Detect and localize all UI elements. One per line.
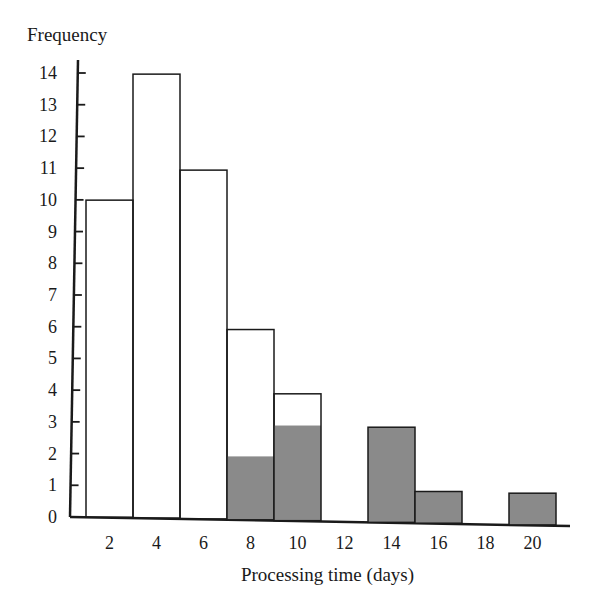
x-tick-label: 18	[477, 533, 495, 553]
y-tick-label: 10	[39, 190, 57, 210]
x-tick-label: 10	[289, 533, 307, 553]
y-tick-label: 14	[39, 63, 57, 83]
y-tick-label: 3	[48, 412, 57, 432]
bar-total	[133, 74, 180, 518]
y-tick-label: 7	[48, 285, 57, 305]
bar-shaded	[509, 493, 556, 525]
y-tick-label: 9	[48, 222, 57, 242]
bar-shaded	[415, 491, 462, 523]
y-tick-label: 2	[48, 444, 57, 464]
y-tick-label: 8	[48, 253, 57, 273]
y-tick-label: 4	[48, 380, 57, 400]
x-tick-label: 14	[383, 533, 401, 553]
x-tick-label: 12	[336, 533, 354, 553]
y-tick-label: 13	[39, 95, 57, 115]
bar-total	[86, 200, 133, 517]
x-tick-label: 6	[199, 533, 208, 553]
y-tick-label: 5	[48, 348, 57, 368]
x-tick-label: 4	[152, 533, 161, 553]
x-tick-label: 16	[430, 533, 448, 553]
y-tick-label: 0	[48, 507, 57, 527]
x-tick-label: 8	[246, 533, 255, 553]
y-axis	[70, 60, 78, 517]
x-tick-label: 2	[105, 533, 114, 553]
bar-shaded	[227, 456, 274, 519]
bar-total	[180, 170, 227, 519]
histogram-chart: 012345678910111213142468101214161820	[0, 0, 600, 611]
y-tick-label: 1	[48, 475, 57, 495]
y-tick-label: 11	[40, 158, 57, 178]
x-tick-label: 20	[524, 533, 542, 553]
y-tick-label: 12	[39, 126, 57, 146]
x-axis-label: Processing time (days)	[0, 564, 600, 586]
bar-shaded	[368, 427, 415, 522]
y-tick-label: 6	[48, 317, 57, 337]
bar-shaded	[274, 426, 321, 521]
